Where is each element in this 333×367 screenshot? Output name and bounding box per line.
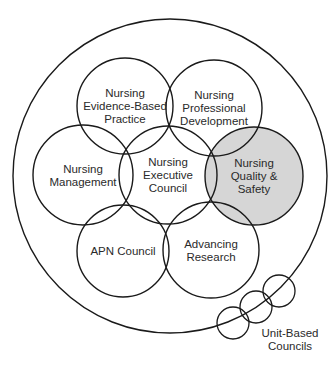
council-label-executive: Council (149, 182, 187, 194)
unit-based-council-circle (217, 307, 249, 339)
council-label-management: Nursing (63, 163, 103, 175)
council-label-executive: Nursing (148, 156, 188, 168)
council-label-prof-dev: Nursing (194, 89, 234, 101)
council-label-quality-safety: Safety (238, 183, 271, 195)
council-label-ebp: Practice (104, 113, 146, 125)
council-label-apn: APN Council (90, 245, 155, 257)
unit-based-council-circle (263, 275, 295, 307)
council-label-ebp: Nursing (105, 87, 145, 99)
unit-based-label: Councils (268, 340, 312, 352)
governance-diagram: NursingEvidence-BasedPracticeNursingProf… (0, 0, 333, 367)
council-label-executive: Executive (143, 169, 193, 181)
council-label-prof-dev: Professional (182, 102, 245, 114)
council-label-research: Research (186, 251, 235, 263)
council-label-quality-safety: Nursing (234, 157, 274, 169)
unit-based-label: Unit-Based (262, 327, 319, 339)
council-label-management: Management (49, 176, 117, 188)
council-label-research: Advancing (184, 238, 238, 250)
council-label-quality-safety: Quality & (231, 170, 278, 182)
council-label-prof-dev: Development (180, 115, 249, 127)
council-label-ebp: Evidence-Based (83, 100, 167, 112)
